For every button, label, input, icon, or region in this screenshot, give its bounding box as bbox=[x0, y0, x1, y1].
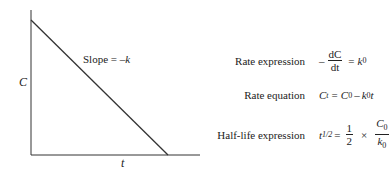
equals: = bbox=[332, 89, 338, 101]
rate-expression-row: Rate expression – dC dt = k0 bbox=[187, 48, 366, 73]
k-sub: 0 bbox=[382, 141, 386, 150]
equals: = bbox=[348, 55, 354, 67]
t: t bbox=[371, 89, 374, 101]
denominator: dt bbox=[331, 61, 340, 73]
ct: C bbox=[319, 89, 326, 101]
rate-equation-label: Rate equation bbox=[187, 89, 305, 101]
numerator: dC bbox=[328, 48, 343, 61]
k-sub: 0 bbox=[362, 56, 366, 65]
t-half-sub: 1/2 bbox=[322, 130, 332, 139]
denominator: k0 bbox=[377, 135, 386, 152]
concentration-line bbox=[31, 20, 168, 155]
rate-equation-row: Rate equation Ct = C0 – k0t bbox=[187, 89, 374, 101]
dc-dt-fraction: dC dt bbox=[328, 48, 343, 73]
c: C bbox=[376, 117, 383, 129]
slope-k: k bbox=[125, 53, 130, 65]
times: × bbox=[361, 129, 367, 141]
minus-sign: – bbox=[319, 55, 325, 67]
numerator: C0 bbox=[375, 117, 388, 135]
equals: = bbox=[334, 129, 340, 141]
rate-expression-label: Rate expression bbox=[187, 55, 305, 67]
half-life-label: Half-life expression bbox=[187, 129, 305, 141]
c0-sub: 0 bbox=[348, 91, 352, 100]
c-sub: 0 bbox=[384, 123, 388, 132]
x-axis-label: t bbox=[121, 156, 124, 171]
minus: – bbox=[354, 89, 360, 101]
ct-sub: t bbox=[326, 91, 328, 100]
slope-prefix: Slope = – bbox=[83, 53, 125, 65]
one-half-fraction: 1 2 bbox=[346, 122, 354, 147]
half-life-row: Half-life expression t1/2 = 1 2 × C0 k0 bbox=[187, 117, 392, 152]
slope-annotation: Slope = –k bbox=[83, 53, 130, 65]
c0-k0-fraction: C0 k0 bbox=[375, 117, 388, 152]
denominator: 2 bbox=[347, 135, 353, 147]
numerator: 1 bbox=[346, 122, 354, 135]
c0: C bbox=[341, 89, 348, 101]
y-axis-label: C bbox=[19, 75, 27, 90]
